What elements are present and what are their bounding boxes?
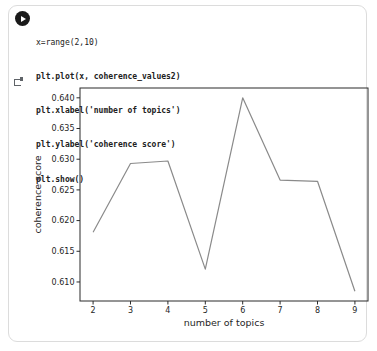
x-tick-label: 7: [278, 306, 283, 315]
run-cell-button[interactable]: [15, 11, 30, 26]
y-tick-label: 0.630: [52, 155, 75, 164]
x-tick-label: 5: [203, 306, 208, 315]
code-line: plt.plot(x, coherence_values2): [36, 71, 181, 82]
y-tick-label: 0.625: [52, 186, 75, 195]
y-axis-label: coherence score: [32, 155, 43, 233]
x-axis-label: number of topics: [184, 317, 265, 328]
y-tick-label: 0.635: [52, 124, 75, 133]
x-tick-label: 9: [352, 306, 357, 315]
line-series: [93, 98, 355, 291]
y-tick-label: 0.615: [52, 247, 75, 256]
y-tick-label: 0.620: [52, 216, 75, 225]
y-tick-label: 0.610: [52, 278, 75, 287]
notebook-code-cell: x=range(2,10) plt.plot(x, coherence_valu…: [8, 5, 367, 342]
play-icon: [21, 16, 26, 22]
x-tick-label: 4: [165, 306, 170, 315]
axes-frame: [80, 88, 368, 301]
y-tick-label: 0.640: [52, 94, 75, 103]
x-tick-label: 8: [315, 306, 320, 315]
x-tick-label: 2: [91, 306, 96, 315]
cell-output-icon: [14, 77, 23, 87]
matplotlib-figure: 234567890.6100.6150.6200.6250.6300.6350.…: [31, 85, 371, 341]
chart-svg: 234567890.6100.6150.6200.6250.6300.6350.…: [31, 85, 371, 341]
x-tick-label: 3: [128, 306, 133, 315]
code-line: x=range(2,10): [36, 37, 181, 48]
x-tick-label: 6: [240, 306, 245, 315]
